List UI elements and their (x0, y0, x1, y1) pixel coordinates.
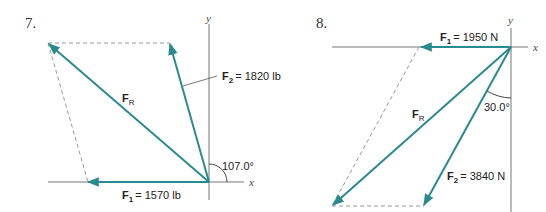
angle-label: 30.0° (484, 101, 510, 113)
problem-8-number: 8. (316, 15, 327, 31)
problem-7-number: 7. (25, 15, 36, 31)
angle-arc (487, 91, 511, 98)
vector-fr (49, 44, 209, 182)
f2-label: F2= 3840 N (447, 170, 505, 185)
fr-label: FR (412, 108, 425, 123)
dashed-line (332, 47, 419, 206)
f2-label: F2= 1820 lb (222, 70, 281, 85)
problem-7-diagram: 7. y x 107.0° F1= 1570 lb F2= 1820 lb FR (25, 12, 281, 204)
problem-8-diagram: 8. y x 30.0° F1= 1950 N F2= 3840 N FR (316, 14, 538, 212)
fr-label: FR (122, 92, 135, 107)
x-axis-label: x (248, 176, 254, 188)
x-axis-label: x (532, 41, 538, 53)
y-axis-label: y (205, 12, 211, 24)
f1-label: F1= 1950 N (440, 31, 498, 46)
f1-label: F1= 1570 lb (122, 189, 181, 204)
y-axis-label: y (507, 14, 513, 26)
dashed-line (48, 43, 88, 182)
leader-line (183, 76, 217, 86)
vector-f2 (170, 44, 209, 182)
angle-label: 107.0° (222, 160, 254, 172)
vector-diagrams: 7. y x 107.0° F1= 1570 lb F2= 1820 lb FR… (0, 0, 546, 212)
